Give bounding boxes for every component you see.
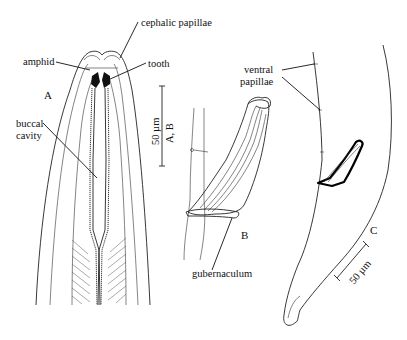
- figure-drawing: [0, 0, 407, 340]
- label-ventral-papillae-line2: papillae: [240, 76, 273, 87]
- label-gubernaculum: gubernaculum: [192, 268, 252, 279]
- label-cephalic-papillae: cephalic papillae: [141, 17, 212, 28]
- scale-ab-applies-to: A, B: [164, 123, 175, 143]
- nematode-figure: cephalic papillae amphid tooth A buccal …: [0, 0, 407, 340]
- label-tooth: tooth: [148, 58, 170, 69]
- muscle-hatching-right: [108, 238, 126, 303]
- label-ventral-papillae-line1: ventral: [244, 64, 273, 75]
- label-amphid: amphid: [23, 56, 55, 67]
- label-buccal-cavity-line1: buccal: [16, 118, 43, 129]
- panel-label-a: A: [44, 90, 52, 101]
- panel-label-c: C: [370, 225, 377, 236]
- panel-c-drawing: [282, 45, 391, 325]
- label-buccal-cavity-line2: cavity: [16, 130, 42, 141]
- panel-label-b: B: [241, 230, 248, 241]
- muscle-hatching-left: [72, 240, 90, 304]
- panel-b-drawing: [184, 97, 271, 270]
- scale-ab-value: 50 µm: [150, 118, 161, 145]
